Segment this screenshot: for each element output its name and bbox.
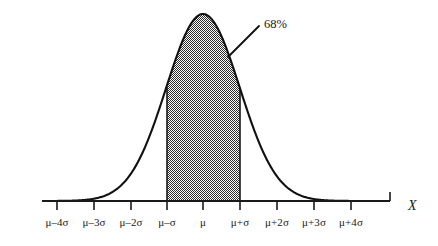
shaded-area-68	[167, 11, 240, 201]
x-axis-tick-label-3: μ–σ	[158, 216, 176, 228]
x-axis-tick-label-2: μ–2σ	[119, 216, 142, 228]
x-axis-tick-label-6: μ+2σ	[265, 216, 289, 228]
distribution-plot	[0, 0, 438, 246]
x-axis-tick-label-7: μ+3σ	[302, 216, 326, 228]
x-axis-tick-label-5: μ+σ	[231, 216, 249, 228]
x-axis-tick-label-0: μ–4σ	[45, 216, 68, 228]
x-axis-name-label: X	[408, 198, 417, 213]
normal-distribution-figure: μ–4σμ–3σμ–2σμ–σμμ+σμ+2σμ+3σμ+4σ 68% X	[0, 0, 438, 246]
callout-leader-line	[228, 26, 259, 57]
x-axis-tick-label-1: μ–3σ	[82, 216, 105, 228]
x-axis-tick-label-8: μ+4σ	[339, 216, 363, 228]
x-axis-tick-label-4: μ	[200, 216, 206, 228]
percent-annotation-label: 68%	[264, 18, 287, 31]
